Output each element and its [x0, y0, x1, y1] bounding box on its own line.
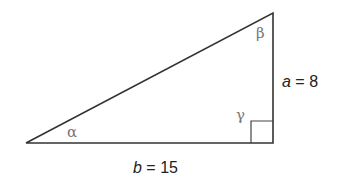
angle-alpha-label: α: [67, 123, 77, 141]
side-b-value: = 15: [142, 159, 178, 176]
angle-gamma-label: γ: [236, 106, 245, 124]
side-a-value: = 8: [291, 73, 318, 90]
side-a-variable: a: [282, 73, 291, 90]
angle-beta-label: β: [256, 24, 265, 42]
side-b-label: b = 15: [133, 159, 178, 176]
side-b-variable: b: [133, 159, 142, 176]
side-a-label: a = 8: [282, 73, 318, 90]
right-angle-marker: [251, 121, 273, 143]
right-triangle-diagram: α β γ a = 8 b = 15: [0, 0, 342, 185]
